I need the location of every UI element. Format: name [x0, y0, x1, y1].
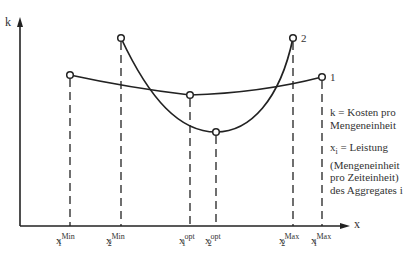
curve-2-max-point	[290, 35, 297, 42]
curve-1-opt-point	[187, 92, 194, 99]
curve-1-max-point	[319, 74, 326, 81]
curve-2-label: 2	[301, 32, 307, 44]
y-axis-label: k	[5, 16, 11, 28]
tick-x1-opt: xopt1	[179, 232, 186, 248]
curve-1	[70, 75, 322, 95]
curve-1-label: 1	[330, 71, 336, 83]
curve-2-opt-point	[213, 129, 220, 136]
curve-2	[121, 38, 293, 132]
curve-2-min-point	[118, 35, 125, 42]
tick-x2-min: xMin2	[106, 232, 112, 248]
tick-x2-opt: xopt2	[205, 232, 212, 248]
tick-x1-min: xMin1	[56, 232, 62, 248]
legend: k = Kosten pro Mengeneinheit xi = Leistu…	[330, 106, 416, 206]
x-axis-label: x	[354, 218, 360, 230]
y-axis-arrow	[17, 17, 23, 27]
legend-k-definition: k = Kosten pro Mengeneinheit	[330, 106, 416, 131]
legend-x-definition: xi = Leistung (Mengeneinheit pro Zeitein…	[330, 141, 416, 196]
tick-x2-max: xMax2	[279, 232, 285, 248]
tick-x1-max: xMax1	[311, 232, 317, 248]
curve-1-min-point	[67, 72, 74, 79]
x-axis-arrow	[340, 223, 350, 229]
